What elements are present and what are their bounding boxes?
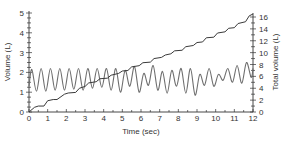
x-tick-label: 11 <box>230 114 239 123</box>
total-volume-line <box>29 14 253 112</box>
x-axis-title: Time (sec) <box>122 127 160 136</box>
tidal-volume-line <box>29 62 253 95</box>
y-left-tick-label: 0 <box>20 108 25 117</box>
axes: 01234567891011120123450246810121416 <box>20 9 269 123</box>
y-left-tick-label: 4 <box>20 29 25 38</box>
y-right-tick-label: 8 <box>259 61 264 70</box>
y-right-axis-title: Total volume (L) <box>271 33 280 90</box>
x-tick-label: 8 <box>176 114 181 123</box>
x-tick-label: 1 <box>45 114 50 123</box>
y-left-tick-label: 3 <box>20 49 25 58</box>
x-tick-label: 5 <box>120 114 125 123</box>
y-left-tick-label: 5 <box>20 9 25 18</box>
y-right-tick-label: 6 <box>259 72 264 81</box>
y-right-tick-label: 16 <box>259 13 268 22</box>
dual-axis-line-chart: 01234567891011120123450246810121416 Time… <box>0 0 290 143</box>
y-right-tick-label: 4 <box>259 84 264 93</box>
y-right-tick-label: 0 <box>259 108 264 117</box>
x-tick-label: 9 <box>195 114 200 123</box>
x-tick-label: 10 <box>211 114 220 123</box>
y-right-tick-label: 10 <box>259 49 268 58</box>
x-tick-label: 7 <box>157 114 162 123</box>
x-tick-label: 12 <box>249 114 258 123</box>
x-tick-label: 0 <box>27 114 32 123</box>
y-right-tick-label: 2 <box>259 96 264 105</box>
y-right-tick-label: 12 <box>259 37 268 46</box>
y-left-axis-title: Volume (L) <box>3 42 12 81</box>
y-left-tick-label: 2 <box>20 68 25 77</box>
x-tick-label: 3 <box>83 114 88 123</box>
x-tick-label: 4 <box>101 114 106 123</box>
x-tick-label: 6 <box>139 114 144 123</box>
x-tick-label: 2 <box>64 114 69 123</box>
plot-area <box>29 14 253 112</box>
y-left-tick-label: 1 <box>20 88 25 97</box>
y-right-tick-label: 14 <box>259 25 268 34</box>
